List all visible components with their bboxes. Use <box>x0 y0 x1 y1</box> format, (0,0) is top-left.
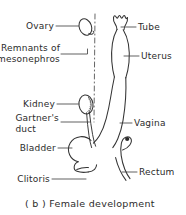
label-tube: Tube <box>138 22 160 33</box>
label-kidney: Kidney <box>23 99 55 110</box>
label-gartners-duct: Gartner's duct <box>15 113 59 134</box>
label-mesonephros-line1: Remnants of <box>0 43 60 54</box>
label-mesonephros-line2: mesonephros <box>0 54 60 65</box>
label-clitoris: Clitoris <box>17 174 50 185</box>
rectum-tip-dot <box>125 137 129 141</box>
label-bladder: Bladder <box>20 143 56 154</box>
label-rectum: Rectum <box>139 167 175 178</box>
rectum-shape <box>116 137 132 181</box>
label-vagina: Vagina <box>134 118 166 129</box>
midline-axis-line <box>94 14 95 122</box>
ovary-shape <box>77 17 94 37</box>
figure-caption: ( b ) Female development <box>25 198 155 209</box>
clitoris-shape <box>77 165 97 172</box>
vagina-shape <box>93 77 126 148</box>
gartners-duct-shape <box>87 112 96 147</box>
bladder-shape <box>68 137 91 173</box>
label-uterus: Uterus <box>141 51 172 62</box>
label-gartner-line1: Gartner's <box>15 113 59 124</box>
uterine-tube-shape <box>113 16 127 30</box>
label-ovary: Ovary <box>26 21 54 32</box>
kidney-shape <box>78 94 95 115</box>
label-remnants-of-mesonephros: Remnants of mesonephros <box>0 43 60 64</box>
uterus-shape <box>112 30 130 78</box>
leader-mesonephros <box>61 49 88 54</box>
label-gartner-line2: duct <box>15 124 59 135</box>
figure-female-development: Ovary Remnants of mesonephros Kidney Gar… <box>0 0 186 215</box>
